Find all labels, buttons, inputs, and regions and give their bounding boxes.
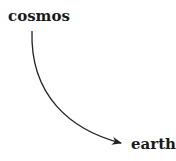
diagram-canvas: cosmos earth bbox=[0, 0, 176, 161]
node-earth: earth bbox=[131, 137, 176, 152]
